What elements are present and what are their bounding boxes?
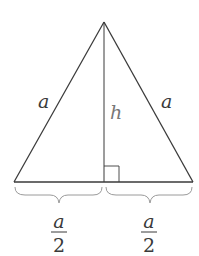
right-fraction-numerator: a <box>143 210 154 232</box>
left-fraction-denominator: 2 <box>53 234 65 256</box>
right-brace <box>106 187 192 203</box>
triangle-diagram: a a h a 2 a 2 <box>0 0 199 256</box>
left-fraction-numerator: a <box>53 210 64 232</box>
right-angle-marker <box>104 166 119 182</box>
right-side-label: a <box>161 90 172 112</box>
left-side <box>14 22 104 182</box>
right-fraction-denominator: 2 <box>143 234 155 256</box>
left-brace <box>15 187 102 203</box>
left-side-label: a <box>38 90 49 112</box>
height-label: h <box>110 101 122 123</box>
